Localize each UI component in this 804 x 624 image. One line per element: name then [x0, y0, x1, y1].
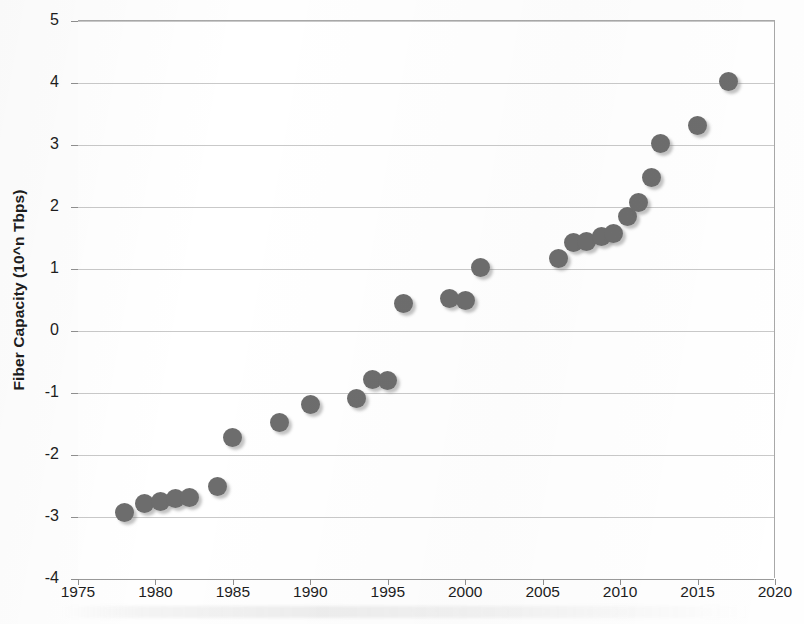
data-point [719, 72, 738, 91]
gridline-y--4 [78, 579, 774, 580]
data-point [378, 371, 397, 390]
x-tick-label-2020: 2020 [735, 583, 804, 601]
y-tick--1 [71, 393, 78, 394]
y-tick-2 [71, 207, 78, 208]
data-point [208, 477, 227, 496]
x-tick-label-1995: 1995 [348, 583, 428, 601]
scan-smudge [60, 606, 750, 618]
data-point [471, 258, 490, 277]
x-tick-label-2010: 2010 [580, 583, 660, 601]
gridline-y-5 [78, 21, 774, 22]
y-tick-label-4: 4 [8, 73, 68, 91]
data-point [549, 249, 568, 268]
gridline-y--1 [78, 393, 774, 394]
y-tick-label--3: -3 [8, 507, 68, 525]
data-point [270, 413, 289, 432]
y-tick-0 [71, 331, 78, 332]
gridline-y-1 [78, 269, 774, 270]
y-tick--2 [71, 455, 78, 456]
data-point [651, 134, 670, 153]
gridline-y-2 [78, 207, 774, 208]
data-point [301, 395, 320, 414]
x-tick-label-1975: 1975 [38, 583, 118, 601]
y-tick-label-2: 2 [8, 197, 68, 215]
y-tick-3 [71, 145, 78, 146]
y-tick--3 [71, 517, 78, 518]
y-tick--4 [71, 579, 78, 580]
y-tick-5 [71, 21, 78, 22]
x-tick-label-2015: 2015 [658, 583, 738, 601]
plot-area [78, 20, 775, 578]
data-point [688, 116, 707, 135]
data-point [604, 224, 623, 243]
y-tick-label--2: -2 [8, 445, 68, 463]
y-tick-label--1: -1 [8, 383, 68, 401]
y-tick-1 [71, 269, 78, 270]
gridline-y--3 [78, 517, 774, 518]
y-axis-title-text: Fiber Capacity (10^n Tbps) [10, 189, 28, 390]
data-point [456, 291, 475, 310]
y-tick-label-0: 0 [8, 321, 68, 339]
y-tick-label-5: 5 [8, 11, 68, 29]
x-tick-label-1985: 1985 [193, 583, 273, 601]
data-point [115, 503, 134, 522]
y-tick-label-3: 3 [8, 135, 68, 153]
data-point [347, 389, 366, 408]
gridline-y--2 [78, 455, 774, 456]
gridline-y-4 [78, 83, 774, 84]
scatter-chart: Fiber Capacity (10^n Tbps) -4-3-2-101234… [0, 0, 804, 624]
y-tick-4 [71, 83, 78, 84]
y-tick-label-1: 1 [8, 259, 68, 277]
x-tick-label-2005: 2005 [503, 583, 583, 601]
x-tick-label-1990: 1990 [270, 583, 350, 601]
data-point [394, 294, 413, 313]
gridline-y-0 [78, 331, 774, 332]
x-tick-label-1980: 1980 [115, 583, 195, 601]
x-tick-label-2000: 2000 [425, 583, 505, 601]
data-point [180, 488, 199, 507]
data-point [642, 168, 661, 187]
data-point [223, 428, 242, 447]
data-point [629, 193, 648, 212]
